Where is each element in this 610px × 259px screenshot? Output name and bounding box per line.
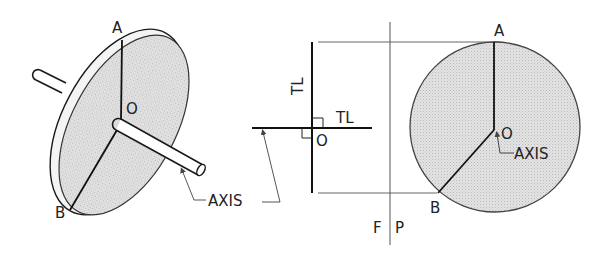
label-o: O — [126, 100, 138, 118]
label-a: A — [112, 19, 123, 37]
right-angle-lower — [302, 128, 312, 138]
shaft-rear — [33, 70, 66, 93]
diagram-canvas: A B O AXIS TL TL O F P A B O AXIS — [0, 0, 610, 259]
label-a-profile: A — [494, 22, 505, 40]
profile-view: A B O AXIS — [410, 22, 580, 217]
label-f: F — [373, 219, 382, 237]
label-tl-horizontal: TL — [335, 109, 354, 127]
label-o-profile: O — [501, 125, 513, 143]
label-b: B — [55, 204, 65, 222]
axis-leader-tail — [262, 132, 280, 202]
label-axis: AXIS — [208, 192, 242, 210]
radius-oa — [121, 40, 122, 120]
label-o-front: O — [316, 132, 328, 150]
label-axis-profile: AXIS — [514, 145, 548, 163]
pictorial-view: A B O AXIS — [22, 7, 280, 237]
fold-line-group: F P — [373, 22, 404, 245]
disc-true-shape — [410, 42, 580, 212]
label-p: P — [395, 219, 404, 237]
label-tl-vertical: TL — [289, 77, 307, 96]
label-b-profile: B — [430, 199, 440, 217]
right-angle-upper — [312, 118, 323, 128]
